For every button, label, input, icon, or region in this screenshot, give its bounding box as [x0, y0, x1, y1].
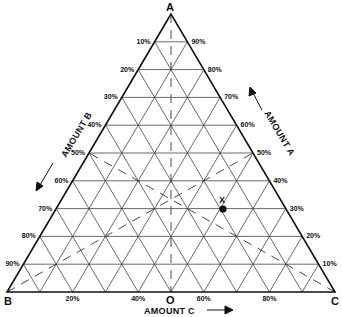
- bottom-tick-label: 80%: [262, 295, 277, 302]
- right-tick-label: 70%: [224, 93, 239, 100]
- right-edge-ticks: 90%80%70%60%50%40%30%20%10%: [191, 38, 337, 267]
- right-tick-label: 60%: [241, 121, 256, 128]
- axis-a-arrow: [249, 87, 262, 110]
- axis-b-arrow: [36, 163, 53, 191]
- right-tick-label: 20%: [306, 232, 321, 239]
- left-tick-label: 60%: [55, 177, 70, 184]
- vertex-a-label: A: [166, 1, 174, 13]
- left-tick-label: 50%: [71, 149, 86, 156]
- vertex-b-label: B: [4, 295, 12, 307]
- right-tick-label: 40%: [273, 177, 288, 184]
- point-x-label: X: [219, 195, 225, 205]
- bottom-tick-label: 20%: [66, 295, 81, 302]
- axis-c-arrow: [207, 306, 233, 314]
- vertex-c-label: C: [331, 295, 339, 307]
- point-x-marker: [219, 205, 226, 212]
- bottom-tick-label: 60%: [197, 295, 212, 302]
- left-tick-label: 70%: [38, 205, 53, 212]
- right-tick-label: 80%: [208, 66, 223, 73]
- ternary-plot: A B C O 10%20%30%40%50%60%70%80%90% 90%8…: [0, 0, 342, 317]
- right-tick-label: 30%: [290, 205, 305, 212]
- left-edge-ticks: 10%20%30%40%50%60%70%80%90%: [5, 38, 151, 267]
- left-tick-label: 80%: [22, 232, 37, 239]
- bottom-tick-label: 40%: [131, 295, 146, 302]
- right-tick-label: 90%: [191, 38, 206, 45]
- right-tick-label: 50%: [257, 149, 272, 156]
- left-tick-label: 20%: [120, 66, 135, 73]
- right-tick-label: 10%: [323, 260, 338, 267]
- ternary-diagram: A B C O 10%20%30%40%50%60%70%80%90% 90%8…: [0, 0, 342, 317]
- left-tick-label: 90%: [5, 260, 20, 267]
- origin-label: O: [166, 294, 175, 306]
- left-tick-label: 30%: [104, 93, 119, 100]
- left-tick-label: 10%: [137, 38, 152, 45]
- axis-c-title: AMOUNT C: [144, 306, 195, 316]
